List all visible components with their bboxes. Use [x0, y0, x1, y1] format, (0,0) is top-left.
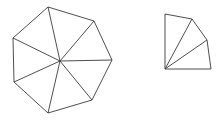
heptagon-spoke-3: [60, 60, 112, 61]
sector-spoke-2: [165, 40, 207, 69]
heptagon-spoke-2: [60, 21, 94, 61]
sector-spoke-1: [165, 19, 192, 69]
heptagon-spoke-1: [48, 7, 60, 61]
heptagon-spoke-7: [13, 38, 60, 61]
heptagon-spoke-6: [14, 61, 60, 82]
figure-triangulated-heptagon: [13, 7, 112, 113]
geometry-figures-svg: [0, 0, 223, 120]
heptagon-spoke-4: [60, 61, 92, 100]
diagram-canvas: [0, 0, 223, 120]
figure-triangulated-sector: [165, 14, 211, 69]
heptagon-spoke-5: [48, 61, 60, 113]
